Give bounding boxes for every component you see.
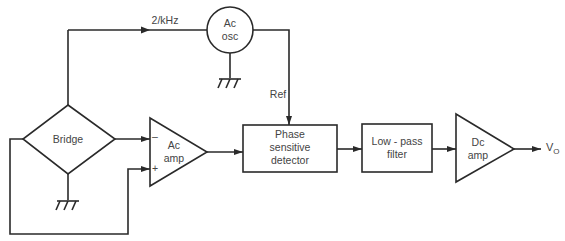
dc-amp-line1: Dc — [460, 136, 496, 149]
oscillator-label: Ac osc — [214, 17, 246, 43]
ac-amp-line2: amp — [156, 152, 192, 165]
excitation-arrow-icon — [141, 27, 150, 34]
psd-label: Phase sensitive detector — [243, 128, 337, 167]
ref-line — [253, 30, 289, 125]
bridge-ground-icon — [56, 201, 79, 210]
psd-line3: detector — [243, 154, 337, 167]
lpf-line2: filter — [362, 148, 432, 161]
lpf-label: Low - pass filter — [362, 135, 432, 161]
ac-amp-label: Ac amp — [156, 139, 192, 165]
block-diagram — [0, 0, 565, 241]
ac-amp-line1: Ac — [156, 139, 192, 152]
output-label: VO — [546, 141, 560, 158]
osc-ground-icon — [218, 79, 241, 88]
bridge-label: Bridge — [38, 133, 98, 146]
dc-amp-line2: amp — [460, 149, 496, 162]
ref-label: Ref — [266, 88, 290, 101]
osc-line1: Ac — [214, 17, 246, 30]
output-sub: O — [553, 147, 559, 156]
excitation-label: 2/kHz — [140, 14, 190, 27]
lpf-line1: Low - pass — [362, 135, 432, 148]
dc-amp-label: Dc amp — [460, 136, 496, 162]
psd-line1: Phase — [243, 128, 337, 141]
psd-line2: sensitive — [243, 141, 337, 154]
osc-line2: osc — [214, 30, 246, 43]
